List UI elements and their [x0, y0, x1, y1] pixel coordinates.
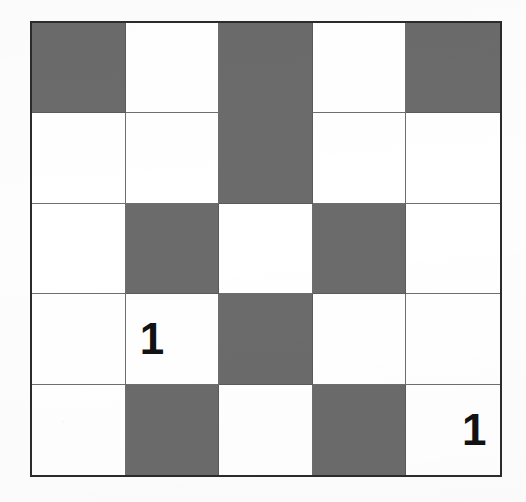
grid-cell-r4c5[interactable] — [406, 294, 500, 384]
grid-cell-r4c2[interactable]: 1 — [126, 294, 220, 384]
grid-cell-r2c2[interactable] — [126, 113, 220, 203]
grid-cell-r2c5[interactable] — [406, 113, 500, 203]
grid-cell-r4c1[interactable] — [32, 294, 126, 384]
grid-cell-r3c1[interactable] — [32, 204, 126, 294]
grid-cell-r3c2[interactable] — [126, 204, 220, 294]
grid-cell-r2c4[interactable] — [313, 113, 407, 203]
grid-cell-r2c3[interactable] — [219, 113, 313, 203]
grid-cell-r5c5[interactable]: 1 — [406, 385, 500, 475]
grid-cell-r2c1[interactable] — [32, 113, 126, 203]
grid-cell-r1c3[interactable] — [219, 23, 313, 113]
grid-cell-r1c4[interactable] — [313, 23, 407, 113]
puzzle-grid[interactable]: 11 — [30, 21, 502, 477]
grid-cell-r3c3[interactable] — [219, 204, 313, 294]
grid-cell-r4c4[interactable] — [313, 294, 407, 384]
grid-cell-r1c2[interactable] — [126, 23, 220, 113]
grid-cell-r3c5[interactable] — [406, 204, 500, 294]
grid-cell-r5c2[interactable] — [126, 385, 220, 475]
grid-cell-r4c3[interactable] — [219, 294, 313, 384]
grid-cell-r1c1[interactable] — [32, 23, 126, 113]
grid-cell-r3c4[interactable] — [313, 204, 407, 294]
grid-cell-r5c1[interactable] — [32, 385, 126, 475]
grid-cell-r5c4[interactable] — [313, 385, 407, 475]
grid-cell-r1c5[interactable] — [406, 23, 500, 113]
grid-cell-r5c3[interactable] — [219, 385, 313, 475]
cell-label-r4c2: 1 — [140, 317, 163, 361]
cell-label-r5c5: 1 — [462, 408, 485, 452]
